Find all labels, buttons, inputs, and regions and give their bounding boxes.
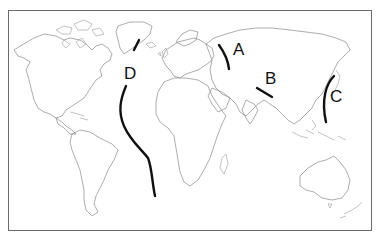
world-map (0, 0, 379, 237)
arabian-peninsula-outline (208, 88, 230, 112)
arctic-islands-outline (56, 20, 104, 48)
boundary-label-d: D (124, 65, 136, 82)
north-america-outline (14, 34, 112, 118)
madagascar-outline (220, 154, 228, 174)
southeast-asia-islands-outline (292, 120, 346, 140)
iceland-outline (146, 42, 156, 48)
boundary-line-d-upper (134, 40, 139, 50)
boundary-label-c: C (330, 88, 342, 105)
asia-outline (206, 28, 350, 124)
boundary-label-b: B (265, 70, 276, 87)
africa-outline (156, 78, 226, 186)
boundary-line-a (219, 45, 229, 69)
new-zealand-outline (340, 202, 362, 218)
boundary-label-a: A (233, 41, 244, 58)
boundary-line-b (257, 88, 272, 97)
caribbean-outline (70, 112, 88, 120)
australia-outline (300, 156, 350, 200)
tasmania-outline (328, 204, 332, 208)
boundary-line-d (120, 86, 155, 196)
central-america-outline (56, 118, 76, 134)
south-america-outline (70, 130, 118, 216)
